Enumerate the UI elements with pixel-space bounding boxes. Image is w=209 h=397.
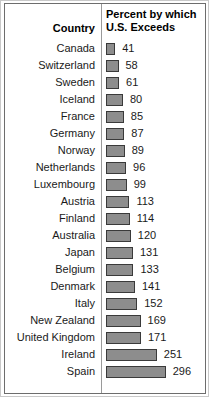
row-bar-area: 120 [106, 227, 205, 244]
row-country-label: Switzerland [5, 59, 95, 71]
chart-row: Norway89 [5, 142, 205, 159]
row-bar-area: 113 [106, 193, 205, 210]
row-country-label: Japan [5, 246, 95, 258]
chart-inner-frame: Country Percent by which U.S. Exceeds Ca… [4, 3, 206, 394]
chart-row: Finland114 [5, 210, 205, 227]
chart-row: Belgium133 [5, 261, 205, 278]
row-value-label: 141 [142, 280, 160, 292]
chart-row: Luxembourg99 [5, 176, 205, 193]
row-bar-area: 133 [106, 261, 205, 278]
row-bar [106, 281, 135, 293]
chart-row: Austria113 [5, 193, 205, 210]
chart-row: Spain296 [5, 363, 205, 380]
row-value-label: 120 [138, 229, 156, 241]
row-bar-area: 80 [106, 91, 205, 108]
row-bar-area: 296 [106, 363, 205, 380]
chart-row: Sweden61 [5, 74, 205, 91]
row-bar-fill [106, 247, 133, 259]
row-bar [106, 60, 119, 72]
row-bar-fill [106, 298, 137, 310]
chart-row: Denmark141 [5, 278, 205, 295]
chart-row: Netherlands96 [5, 159, 205, 176]
row-bar [106, 43, 115, 55]
row-bar-fill [106, 264, 133, 276]
row-bar-area: 152 [106, 295, 205, 312]
row-bar-area: 85 [106, 108, 205, 125]
chart-row: Italy152 [5, 295, 205, 312]
row-value-label: 41 [122, 42, 134, 54]
row-value-label: 80 [130, 93, 142, 105]
row-bar-area: 171 [106, 329, 205, 346]
header-percent-line2: U.S. Exceeds [106, 21, 204, 34]
chart-row: Australia120 [5, 227, 205, 244]
chart-row: New Zealand169 [5, 312, 205, 329]
chart-row: Germany87 [5, 125, 205, 142]
row-bar [106, 349, 157, 361]
row-value-label: 99 [134, 178, 146, 190]
row-value-label: 131 [140, 246, 158, 258]
row-country-label: United Kingdom [5, 331, 95, 343]
row-bar [106, 94, 123, 106]
row-value-label: 251 [164, 348, 182, 360]
row-bar-area: 114 [106, 210, 205, 227]
row-value-label: 296 [173, 365, 191, 377]
row-country-label: Finland [5, 212, 95, 224]
row-country-label: Denmark [5, 280, 95, 292]
row-country-label: Austria [5, 195, 95, 207]
row-country-label: Luxembourg [5, 178, 95, 190]
row-bar-area: 141 [106, 278, 205, 295]
row-bar-fill [106, 213, 130, 225]
row-bar [106, 145, 125, 157]
row-value-label: 58 [126, 59, 138, 71]
row-bar [106, 366, 166, 378]
row-country-label: Ireland [5, 348, 95, 360]
row-bar-fill [106, 77, 119, 89]
row-country-label: Netherlands [5, 161, 95, 173]
row-bar [106, 77, 119, 89]
chart-row: Iceland80 [5, 91, 205, 108]
row-bar [106, 247, 133, 259]
row-country-label: Australia [5, 229, 95, 241]
header-percent: Percent by which U.S. Exceeds [106, 8, 204, 34]
table-header: Country Percent by which U.S. Exceeds [5, 4, 205, 40]
row-bar [106, 264, 133, 276]
row-bar-fill [106, 230, 131, 242]
row-bar-area: 61 [106, 74, 205, 91]
chart-rows: Canada41Switzerland58Sweden61Iceland80Fr… [5, 40, 205, 380]
row-value-label: 169 [148, 314, 166, 326]
row-bar [106, 332, 141, 344]
row-bar [106, 128, 124, 140]
row-country-label: New Zealand [5, 314, 95, 326]
row-bar-area: 96 [106, 159, 205, 176]
row-bar [106, 162, 126, 174]
row-bar-fill [106, 145, 125, 157]
row-bar-fill [106, 111, 124, 123]
chart-frame: Country Percent by which U.S. Exceeds Ca… [0, 0, 209, 397]
row-bar-fill [106, 128, 124, 140]
row-country-label: Iceland [5, 93, 95, 105]
row-bar-area: 87 [106, 125, 205, 142]
row-bar-fill [106, 60, 119, 72]
row-bar-fill [106, 162, 126, 174]
row-bar [106, 315, 141, 327]
row-bar-area: 89 [106, 142, 205, 159]
chart-row: France85 [5, 108, 205, 125]
row-bar-area: 251 [106, 346, 205, 363]
header-percent-line1: Percent by which [106, 8, 204, 21]
row-bar [106, 213, 130, 225]
row-bar-fill [106, 94, 123, 106]
chart-row: Canada41 [5, 40, 205, 57]
row-bar-fill [106, 349, 157, 361]
row-country-label: France [5, 110, 95, 122]
row-bar-area: 131 [106, 244, 205, 261]
row-value-label: 152 [144, 297, 162, 309]
row-bar-area: 99 [106, 176, 205, 193]
chart-row: Ireland251 [5, 346, 205, 363]
row-bar-area: 41 [106, 40, 205, 57]
row-value-label: 61 [126, 76, 138, 88]
chart-row: United Kingdom171 [5, 329, 205, 346]
row-bar-fill [106, 281, 135, 293]
row-bar-fill [106, 332, 141, 344]
chart-row: Switzerland58 [5, 57, 205, 74]
row-country-label: Spain [5, 365, 95, 377]
